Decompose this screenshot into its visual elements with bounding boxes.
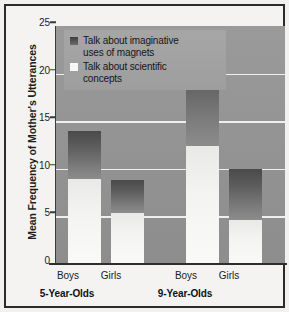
bar-5yo-girls: [111, 180, 144, 264]
bar-segment-imaginative: [111, 180, 144, 212]
legend-label-line2: concepts: [83, 73, 122, 84]
x-label-5yo-boys: Boys: [45, 270, 91, 281]
figure-container: Mean Frequency of Mother's Utterances 25…: [0, 0, 289, 312]
y-tick-label-15: 15: [20, 112, 50, 123]
x-label-9yo-girls: Girls: [206, 270, 252, 281]
legend-label-line1: Talk about scientific: [83, 61, 167, 72]
y-tick-label-5: 5: [20, 207, 50, 218]
x-label-9yo-boys: Boys: [163, 270, 209, 281]
bar-segment-scientific: [111, 213, 144, 264]
legend-label-line2: uses of magnets: [83, 47, 154, 58]
chart-legend: Talk about imaginative uses of magnets T…: [64, 30, 226, 90]
bar-5yo-boys: [68, 131, 101, 264]
chart-frame: Mean Frequency of Mother's Utterances 25…: [4, 4, 285, 308]
legend-swatch-dark-icon: [70, 37, 78, 45]
legend-label-scientific: Talk about scientific concepts: [83, 61, 167, 84]
x-axis-line: [49, 263, 287, 265]
x-label-5yo-girls: Girls: [88, 270, 134, 281]
x-group-label-9-year-olds: 9-Year-Olds: [130, 288, 240, 299]
legend-label-imaginative: Talk about imaginative uses of magnets: [83, 35, 179, 58]
bar-segment-scientific: [68, 179, 101, 264]
bar-segment-scientific: [229, 220, 262, 264]
y-tick-label-20: 20: [20, 64, 50, 75]
gridline-15: [56, 121, 285, 123]
y-tick-mark-25: [50, 21, 56, 23]
y-tick-label-0: 0: [20, 255, 50, 266]
bar-segment-imaginative: [229, 169, 262, 220]
bar-9yo-girls: [229, 169, 262, 264]
legend-item-imaginative: Talk about imaginative uses of magnets: [70, 35, 222, 58]
legend-label-line1: Talk about imaginative: [83, 35, 179, 46]
legend-swatch-light-icon: [70, 63, 78, 71]
y-tick-label-10: 10: [20, 159, 50, 170]
x-group-label-5-year-olds: 5-Year-Olds: [12, 288, 122, 299]
bar-segment-scientific: [186, 146, 219, 264]
y-tick-label-25: 25: [20, 17, 50, 28]
bar-segment-imaginative: [68, 131, 101, 180]
legend-item-scientific: Talk about scientific concepts: [70, 61, 222, 84]
y-axis-ticks: 25 20 15 10 5 0: [6, 6, 50, 312]
